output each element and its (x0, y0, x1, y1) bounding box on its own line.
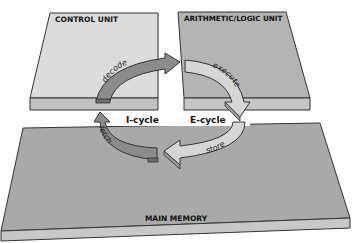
alu-label: ARITHMETIC/LOGIC UNIT (184, 14, 283, 23)
main-memory-label: MAIN MEMORY (145, 214, 208, 223)
i-cycle-label: I-cycle (126, 115, 159, 125)
alu-block: ARITHMETIC/LOGIC UNIT (178, 12, 310, 110)
control-unit-label: CONTROL UNIT (55, 15, 119, 24)
control-unit-block: CONTROL UNIT (30, 13, 158, 110)
e-cycle-label: E-cycle (190, 115, 226, 125)
instruction-cycle-diagram: MAIN MEMORY CONTROL UNIT ARITHMETIC/LOGI… (0, 0, 352, 243)
main-memory-block: MAIN MEMORY (1, 123, 350, 241)
cycle-label-band (100, 112, 250, 126)
